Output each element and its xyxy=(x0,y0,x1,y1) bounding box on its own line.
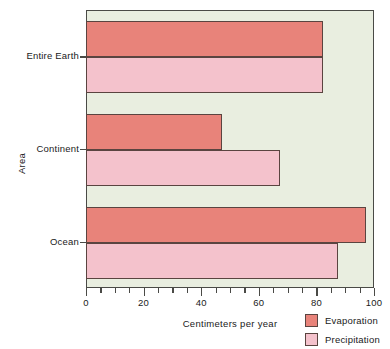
x-axis-minor-tick xyxy=(100,288,101,293)
x-axis-minor-tick xyxy=(187,288,188,293)
x-axis-tick-label: 60 xyxy=(239,297,279,308)
legend-label-evaporation: Evaporation xyxy=(325,315,378,326)
x-axis-minor-tick xyxy=(216,288,217,293)
x-axis-minor-tick xyxy=(273,288,274,293)
y-axis-label-entire-earth: Entire Earth xyxy=(0,50,79,61)
x-axis-tick xyxy=(201,288,202,296)
bar-entire-earth-precipitation xyxy=(86,57,323,93)
x-axis-tick xyxy=(144,288,145,296)
bars-layer xyxy=(87,11,373,287)
legend-swatch-evaporation-icon xyxy=(305,314,318,327)
plot-area xyxy=(86,10,374,288)
bar-continent-precipitation xyxy=(86,150,280,186)
bar-ocean-precipitation xyxy=(86,243,338,279)
x-axis-minor-tick xyxy=(129,288,130,293)
x-axis-tick xyxy=(259,288,260,296)
legend: Evaporation Precipitation xyxy=(305,312,380,349)
legend-item-precipitation: Precipitation xyxy=(305,331,380,348)
bar-entire-earth-evaporation xyxy=(86,21,323,57)
y-axis-label-ocean: Ocean xyxy=(0,236,79,247)
x-axis-minor-tick xyxy=(172,288,173,293)
x-axis-tick-label: 100 xyxy=(354,297,390,308)
legend-swatch-precipitation-icon xyxy=(305,333,318,346)
x-axis-minor-tick xyxy=(288,288,289,293)
x-axis-tick xyxy=(86,288,87,296)
x-axis-minor-tick xyxy=(230,288,231,293)
x-axis-minor-tick xyxy=(115,288,116,293)
legend-label-precipitation: Precipitation xyxy=(325,334,380,345)
x-axis-tick xyxy=(374,288,375,296)
bar-chart: Area Entire EarthContinentOcean 02040608… xyxy=(0,0,390,349)
x-axis-tick-label: 80 xyxy=(296,297,336,308)
x-axis-tick-label: 40 xyxy=(181,297,221,308)
legend-item-evaporation: Evaporation xyxy=(305,312,380,329)
bar-ocean-evaporation xyxy=(86,207,366,243)
x-axis-minor-tick xyxy=(331,288,332,293)
x-axis-minor-tick xyxy=(345,288,346,293)
x-axis-minor-tick xyxy=(158,288,159,293)
bar-continent-evaporation xyxy=(86,114,222,150)
x-axis-tick-label: 20 xyxy=(124,297,164,308)
x-axis-tick-label: 0 xyxy=(66,297,106,308)
y-axis-label-continent: Continent xyxy=(0,143,79,154)
x-axis-minor-tick xyxy=(360,288,361,293)
x-axis-minor-tick xyxy=(302,288,303,293)
x-axis-minor-tick xyxy=(244,288,245,293)
x-axis-tick xyxy=(316,288,317,296)
